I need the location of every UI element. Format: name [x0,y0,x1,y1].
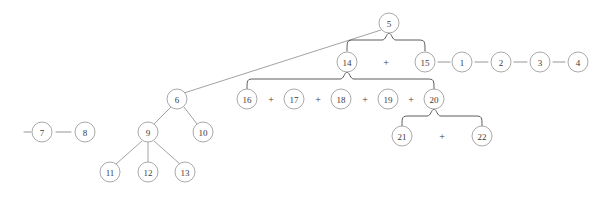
tree-node[interactable]: 8 [75,122,95,142]
node-label: 1 [460,58,465,68]
operator-label: + [383,57,389,68]
tree-node[interactable]: 1 [452,52,472,72]
operator-label: + [408,94,414,105]
tree-node[interactable]: 16 [237,89,257,109]
tree-edge [184,107,197,124]
nodes-layer: 51415123461617181920789102122111213 [32,13,588,182]
tree-node[interactable]: 19 [378,89,398,109]
node-label: 6 [175,95,180,105]
tree-node[interactable]: 3 [530,52,550,72]
node-label: 5 [387,19,392,29]
tree-node[interactable]: 18 [331,89,351,109]
brace-connector [402,109,482,126]
expression-tree-diagram: ++++++ 514151234616171819207891021221112… [0,0,615,202]
node-label: 14 [343,58,353,68]
node-label: 12 [144,168,153,178]
tree-node[interactable]: 17 [284,89,304,109]
tree-node[interactable]: 21 [392,126,412,146]
tree-canvas: ++++++ 514151234616171819207891021221112… [0,0,615,202]
node-label: 19 [384,95,394,105]
node-label: 22 [478,132,487,142]
node-label: 3 [538,58,543,68]
node-label: 7 [40,128,45,138]
operator-label: + [268,94,274,105]
operator-label: + [315,94,321,105]
tree-node[interactable]: 6 [167,89,187,109]
tree-node[interactable]: 15 [415,52,435,72]
node-label: 15 [421,58,431,68]
tree-edge [116,141,142,164]
node-label: 8 [83,128,88,138]
node-label: 13 [181,168,191,178]
tree-node[interactable]: 10 [193,122,213,142]
tree-node[interactable]: 20 [424,89,444,109]
tree-edge [154,141,180,164]
operator-label: + [362,94,368,105]
tree-node[interactable]: 14 [337,52,357,72]
tree-node[interactable]: 22 [472,126,492,146]
tree-edge [154,107,171,124]
brace-connector [347,33,425,51]
tree-node[interactable]: 9 [138,122,158,142]
tree-node[interactable]: 11 [100,162,120,182]
operator-label: + [439,131,445,142]
tree-node[interactable]: 7 [32,122,52,142]
tree-node[interactable]: 5 [379,13,399,33]
node-label: 16 [243,95,253,105]
node-label: 9 [146,128,151,138]
node-label: 21 [398,132,407,142]
node-label: 18 [337,95,347,105]
node-label: 11 [106,168,115,178]
node-label: 10 [199,128,209,138]
braces-layer [247,33,482,126]
tree-node[interactable]: 12 [138,162,158,182]
node-label: 2 [499,58,504,68]
node-label: 4 [576,58,581,68]
node-label: 17 [290,95,300,105]
tree-node[interactable]: 4 [568,52,588,72]
tree-node[interactable]: 13 [175,162,195,182]
node-label: 20 [430,95,440,105]
tree-node[interactable]: 2 [491,52,511,72]
brace-connector [247,72,434,89]
